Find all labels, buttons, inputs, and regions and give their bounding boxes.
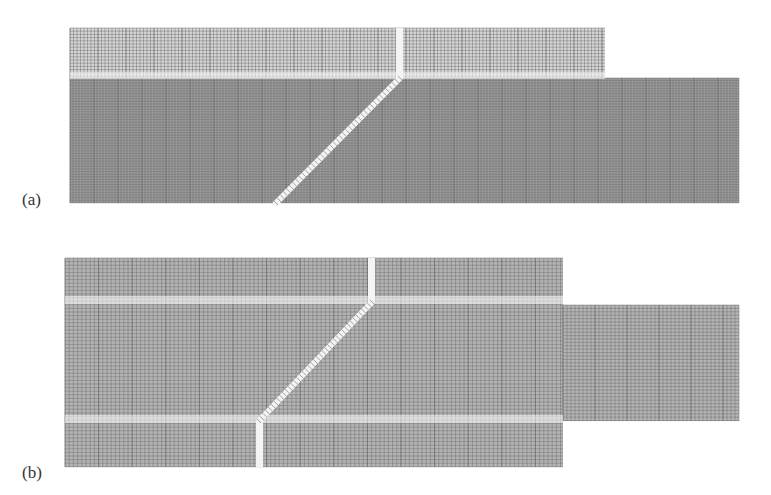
panel-b-vertical-gap-bottom [256,421,263,467]
panel-b-light-band-top [65,296,563,304]
panel-label-a: (a) [22,190,41,210]
panel-a-light-band [70,72,605,79]
panel-b-light-band-bottom [65,415,563,423]
mesh-diagram [0,0,771,495]
figure: (a) (b) [0,0,771,495]
panel-b-vertical-gap-top [368,258,375,302]
panel-label-b: (b) [22,463,42,483]
panel-a-vertical-gap [396,28,403,78]
